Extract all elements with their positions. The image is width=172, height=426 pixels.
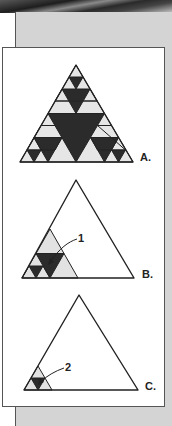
triangle-a: [20, 65, 133, 162]
callout-1-label: 1: [78, 233, 84, 244]
callout-2-label: 2: [65, 362, 71, 373]
panel-a-label: A.: [140, 152, 151, 163]
triangle-b: [22, 180, 134, 278]
triangle-c: [24, 295, 138, 390]
panel-c-label: C.: [145, 381, 156, 392]
panel-b-label: B.: [142, 269, 153, 280]
sierpinski-figure: [0, 0, 172, 426]
